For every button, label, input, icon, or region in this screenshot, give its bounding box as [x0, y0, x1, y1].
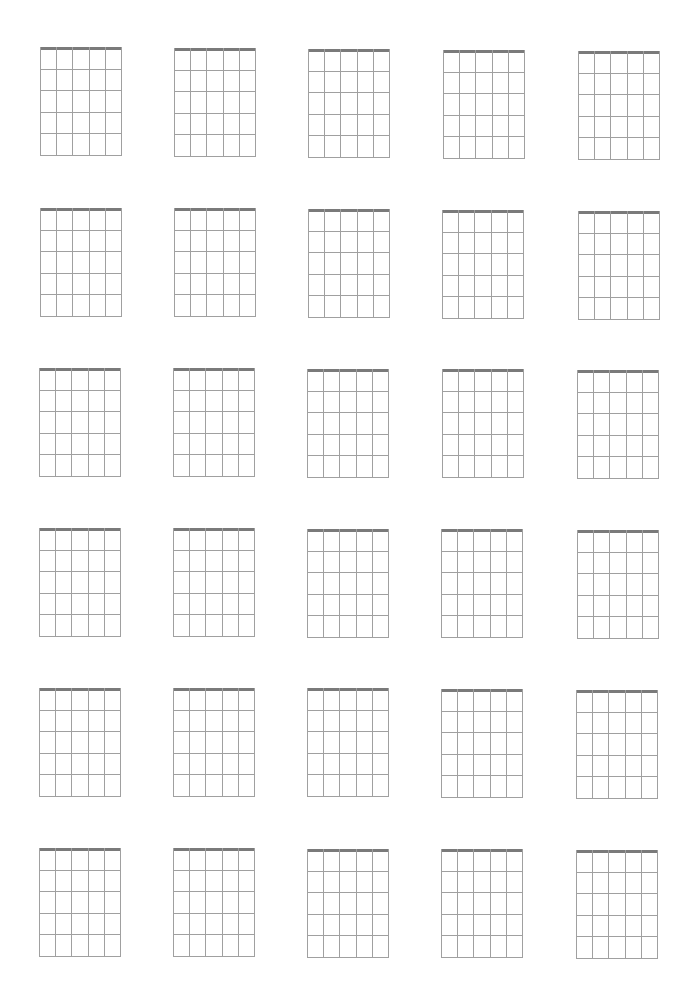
string-line	[388, 369, 389, 478]
string-line	[56, 208, 57, 317]
string-line	[222, 848, 223, 957]
fret-line	[307, 731, 389, 732]
fret-line	[307, 637, 389, 638]
fret-line	[307, 594, 389, 595]
string-line	[55, 688, 56, 797]
fret-line	[441, 594, 523, 595]
fret-line	[39, 571, 121, 572]
chord-diagram-r1-c5	[578, 51, 660, 160]
fret-line	[173, 870, 255, 871]
chord-diagram-r2-c4	[442, 210, 524, 319]
string-line	[441, 689, 442, 798]
chord-diagram-r6-c5	[576, 850, 658, 959]
string-line	[578, 51, 579, 160]
nut-line	[578, 211, 660, 214]
fret-line	[307, 796, 389, 797]
fret-line	[576, 712, 658, 713]
fret-line	[307, 551, 389, 552]
string-line	[659, 211, 660, 320]
chord-diagram-r2-c3	[308, 209, 390, 318]
string-line	[473, 689, 474, 798]
chord-diagram-r3-c3	[307, 369, 389, 478]
nut-line	[576, 690, 658, 693]
string-line	[239, 208, 240, 317]
string-line	[255, 48, 256, 157]
string-line	[255, 208, 256, 317]
string-line	[643, 211, 644, 320]
string-line	[308, 209, 309, 318]
fret-line	[578, 137, 660, 138]
chord-diagram-r3-c2	[173, 368, 255, 477]
string-line	[120, 848, 121, 957]
string-line	[642, 370, 643, 479]
string-line	[323, 688, 324, 797]
string-line	[373, 49, 374, 158]
string-line	[71, 528, 72, 637]
fret-line	[307, 710, 389, 711]
chord-diagram-r3-c4	[442, 369, 524, 478]
nut-line	[173, 528, 255, 531]
fret-line	[442, 477, 524, 478]
chord-diagram-r4-c3	[307, 529, 389, 638]
fret-line	[578, 319, 660, 320]
nut-line	[307, 369, 389, 372]
fret-line	[173, 636, 255, 637]
fret-line	[174, 70, 256, 71]
nut-line	[442, 210, 524, 213]
string-line	[254, 368, 255, 477]
fret-line	[39, 390, 121, 391]
string-line	[238, 528, 239, 637]
fret-line	[307, 615, 389, 616]
string-line	[39, 848, 40, 957]
fret-line	[173, 753, 255, 754]
fret-line	[40, 69, 122, 70]
string-line	[339, 849, 340, 958]
string-line	[307, 849, 308, 958]
fret-line	[307, 477, 389, 478]
string-line	[205, 688, 206, 797]
chord-chart-sheet	[0, 0, 695, 1007]
fret-line	[174, 251, 256, 252]
string-line	[576, 690, 577, 799]
chord-diagram-r2-c5	[578, 211, 660, 320]
string-line	[593, 370, 594, 479]
string-line	[55, 848, 56, 957]
string-line	[626, 370, 627, 479]
string-line	[189, 368, 190, 477]
fret-line	[174, 230, 256, 231]
string-line	[120, 688, 121, 797]
string-line	[576, 850, 577, 959]
fret-line	[174, 316, 256, 317]
chord-diagram-r5-c1	[39, 688, 121, 797]
string-line	[372, 849, 373, 958]
string-line	[239, 48, 240, 157]
chord-diagram-r3-c5	[577, 370, 659, 479]
fret-line	[443, 136, 525, 137]
string-line	[190, 48, 191, 157]
fret-line	[173, 390, 255, 391]
string-line	[625, 690, 626, 799]
nut-line	[174, 208, 256, 211]
string-line	[491, 210, 492, 319]
string-line	[40, 47, 41, 156]
fret-line	[173, 433, 255, 434]
nut-line	[308, 49, 390, 52]
string-line	[506, 529, 507, 638]
fret-line	[39, 411, 121, 412]
nut-line	[441, 529, 523, 532]
fret-line	[577, 392, 659, 393]
string-line	[372, 529, 373, 638]
chord-diagram-r1-c1	[40, 47, 122, 156]
string-line	[56, 47, 57, 156]
fret-line	[441, 754, 523, 755]
string-line	[190, 208, 191, 317]
string-line	[40, 208, 41, 317]
string-line	[658, 530, 659, 639]
fret-line	[442, 434, 524, 435]
string-line	[592, 690, 593, 799]
string-line	[457, 689, 458, 798]
fret-line	[577, 478, 659, 479]
string-line	[594, 211, 595, 320]
fret-line	[577, 638, 659, 639]
fret-line	[308, 135, 390, 136]
